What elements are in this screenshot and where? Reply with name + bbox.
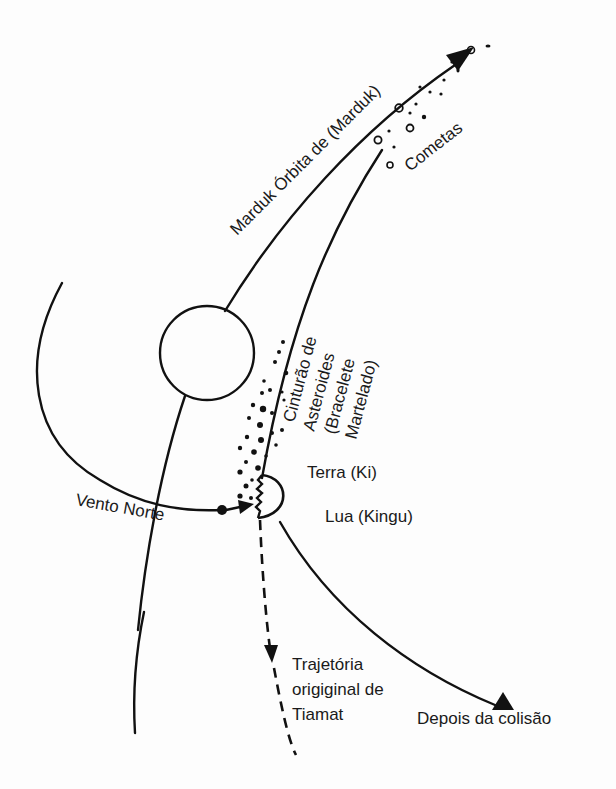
tiamat-trajectory-label-2: origiginal de (292, 680, 384, 699)
left-arc (37, 283, 222, 510)
tiamat-trajectory-label-1: Trajetória (292, 655, 364, 674)
after-collision-label: Depois da colisão (417, 709, 551, 728)
comets-label: Cometas (401, 118, 466, 175)
orbital-diagram: Marduk Órbita de (Marduk) Cometas Cintur… (0, 0, 616, 789)
diagram-canvas: Marduk Órbita de (Marduk) Cometas Cintur… (0, 0, 616, 789)
marduk-orbit-line (225, 65, 455, 311)
outer-planet-circle (160, 306, 254, 400)
north-wind-arrow-icon (238, 500, 254, 514)
tiamat-original-trajectory (260, 520, 270, 648)
earth-half-circle (258, 475, 283, 518)
moon-label: Lua (Kingu) (325, 507, 413, 526)
after-collision-path (280, 522, 495, 705)
earth-label: Terra (Ki) (307, 463, 377, 482)
earth-jagged-edge (256, 475, 262, 518)
marduk-orbit-label: Marduk Órbita de (Marduk) (226, 81, 384, 239)
after-collision-arrow-icon (492, 692, 514, 710)
tiamat-trajectory-label-3: Tiamat (292, 705, 344, 724)
north-wind-label: Vento Norte (74, 490, 166, 524)
north-wind-shaft (226, 507, 240, 510)
tiamat-trajectory-arrow-icon (264, 645, 278, 663)
